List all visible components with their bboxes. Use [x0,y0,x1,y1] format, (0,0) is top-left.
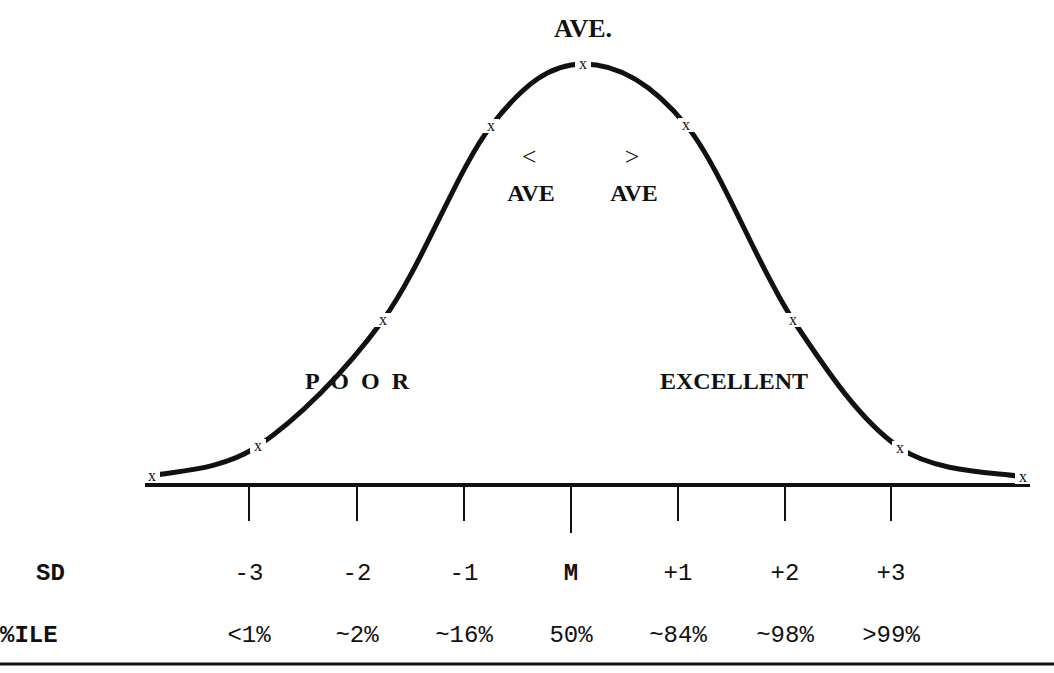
percentile-value-label: ~16% [435,622,493,649]
normal-curve [152,64,1023,477]
bell-curve-figure: xxxxxxxxx AVE. < AVE > AVE P O O R EXCEL… [0,0,1054,673]
x-marker-icon: x [487,117,495,134]
x-marker-icon: x [579,55,587,72]
above-average-sign: > [625,142,640,172]
percentile-row-label: %ILE [0,622,58,649]
x-marker-icon: x [254,437,262,454]
percentile-value-label: ~98% [756,622,814,649]
x-marker-icon: x [896,439,904,456]
x-marker-icon: x [789,311,797,328]
x-marker-icon: x [1019,468,1027,485]
sd-value-label: +2 [771,560,800,587]
percentile-value-label: >99% [862,622,920,649]
below-average-label: AVE [507,180,555,207]
sd-tick-marks [249,485,891,533]
x-marker-icon: x [379,311,387,328]
sd-row-label: SD [36,560,65,587]
sd-value-label: M [564,560,578,587]
x-marker-icon: x [682,116,690,133]
sd-value-label: -1 [450,560,479,587]
sd-value-label: -2 [343,560,372,587]
sd-value-label: +1 [664,560,693,587]
peak-average-label: AVE. [554,14,612,44]
x-marker-icon: x [148,467,156,484]
percentile-value-label: 50% [549,622,592,649]
excellent-region-label: EXCELLENT [660,368,808,395]
below-average-sign: < [522,142,537,172]
poor-region-label: P O O R [305,368,412,395]
percentile-value-label: ~2% [335,622,378,649]
above-average-label: AVE [610,180,658,207]
sd-value-label: +3 [877,560,906,587]
percentile-value-label: ~84% [649,622,707,649]
curve-point-markers: xxxxxxxxx [144,55,1031,485]
percentile-value-label: <1% [227,622,270,649]
sd-value-label: -3 [235,560,264,587]
